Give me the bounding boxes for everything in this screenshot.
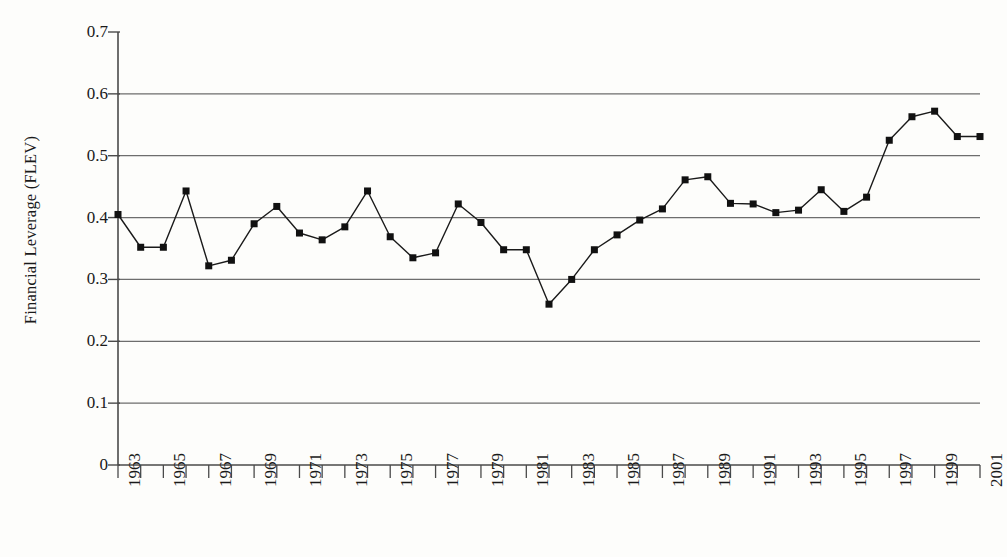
series-line-flev [118,111,980,304]
gridlines [118,94,980,403]
x-axis-tick-label: 1969 [261,453,281,487]
data-point-marker [546,301,553,308]
series-markers-flev [115,108,984,308]
data-point-marker [455,200,462,207]
data-point-marker [319,236,326,243]
data-point-marker [273,203,280,210]
axis-lines [118,32,980,465]
x-axis-tick-label: 1995 [851,453,871,487]
data-point-marker [931,108,938,115]
x-axis-tick-label: 1983 [579,453,599,487]
data-point-marker [908,113,915,120]
data-point-marker [659,205,666,212]
data-point-marker [818,186,825,193]
data-point-marker [341,223,348,230]
x-axis-tick-label: 1965 [170,453,190,487]
x-axis-tick-label: 1993 [806,453,826,487]
x-axis-tick-label: 1973 [352,453,372,487]
data-point-marker [205,262,212,269]
data-point-marker [795,207,802,214]
data-point-marker [409,254,416,261]
x-axis-tick-label: 1979 [488,453,508,487]
data-point-marker [750,200,757,207]
data-point-marker [727,200,734,207]
data-point-marker [523,246,530,253]
data-point-marker [160,244,167,251]
data-point-marker [840,208,847,215]
data-point-marker [636,217,643,224]
x-axis-tick-label: 1981 [533,453,553,487]
data-point-marker [568,276,575,283]
data-point-marker [183,187,190,194]
data-point-marker [886,137,893,144]
x-axis-tick-label: 1967 [216,453,236,487]
data-point-marker [500,246,507,253]
data-point-marker [228,257,235,264]
data-point-marker [977,133,984,140]
x-axis-tick-label: 1987 [669,453,689,487]
x-axis-tick-label: 1997 [896,453,916,487]
data-point-marker [682,176,689,183]
data-point-marker [863,194,870,201]
data-point-marker [296,230,303,237]
x-axis-tick-label: 1999 [942,453,962,487]
data-point-marker [387,233,394,240]
data-point-marker [614,231,621,238]
data-point-marker [704,173,711,180]
data-point-marker [591,246,598,253]
data-point-marker [115,211,122,218]
data-point-marker [137,244,144,251]
data-point-marker [364,187,371,194]
x-axis-tick-label: 1991 [760,453,780,487]
data-point-marker [772,209,779,216]
x-axis-tick-label: 1985 [624,453,644,487]
x-axis-tick-label: 2001 [987,453,1007,487]
data-point-marker [954,133,961,140]
data-point-marker [251,220,258,227]
data-point-marker [432,249,439,256]
x-axis-tick-label: 1977 [443,453,463,487]
x-axis-tick-label: 1989 [715,453,735,487]
data-point-marker [477,219,484,226]
x-axis-tick-label: 1975 [397,453,417,487]
x-axis-tick-label: 1963 [125,453,145,487]
x-axis-tick-label: 1971 [306,453,326,487]
